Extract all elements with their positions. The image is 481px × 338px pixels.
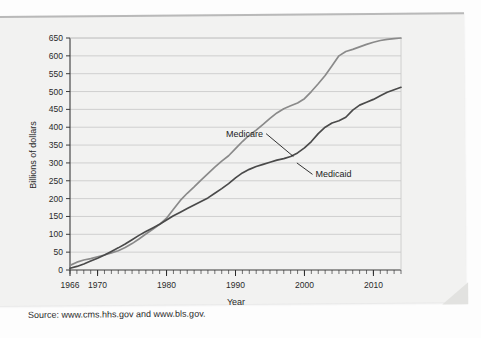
y-tick-label: 450 [49,104,63,114]
annotation-leader-medicaid [297,163,313,174]
data-series-group [70,38,401,268]
y-tick-label: 350 [49,140,63,150]
annotation-label-medicare: Medicare [226,129,263,139]
y-tick-label: 300 [49,158,63,168]
y-tick-label: 150 [49,211,63,221]
series-line-medicare [70,38,401,265]
y-tick-label: 100 [49,229,63,239]
x-axis-title: Year [227,297,245,307]
y-axis-ticks: 050100150200250300350400450500550600650 [49,33,70,275]
y-tick-label: 50 [54,247,64,257]
line-chart: 050100150200250300350400450500550600650 … [0,0,481,338]
x-tick-label: 1990 [226,280,245,290]
x-tick-label: 1970 [88,280,107,290]
x-axis-ticks: 196619701980199020002010 [61,270,401,290]
scanned-chart-page: 050100150200250300350400450500550600650 … [0,0,481,338]
annotation-label-medicaid: Medicaid [315,169,351,179]
y-axis-title: Billions of dollars [28,121,38,189]
gridlines-group [70,38,401,252]
x-tick-label: 1966 [61,280,80,290]
x-tick-label: 1980 [157,280,176,290]
x-tick-label: 2000 [295,280,314,290]
source-note: Source: www.cms.hhs.gov and www.bls.gov. [28,309,205,320]
y-tick-label: 250 [49,176,63,186]
y-tick-label: 0 [58,265,63,275]
y-tick-label: 500 [49,87,63,97]
y-tick-label: 400 [49,122,63,132]
y-tick-label: 600 [49,51,63,61]
axis-lines [70,38,401,270]
x-tick-label: 2010 [364,280,383,290]
chart-figure: 050100150200250300350400450500550600650 … [0,0,481,338]
y-tick-label: 650 [49,33,63,43]
y-tick-label: 200 [49,194,63,204]
y-tick-label: 550 [49,69,63,79]
